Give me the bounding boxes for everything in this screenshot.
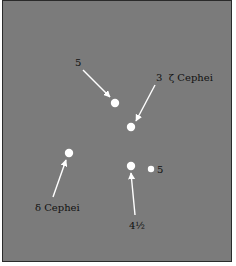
label-mag5-right: 5	[157, 164, 163, 175]
star-delta-cephei	[65, 149, 73, 157]
star-mag4-5	[127, 162, 135, 170]
arrow-zeta-cephei	[136, 85, 155, 121]
star-chart: 5 3 ζ Cephei δ Cephei 4½ 5	[0, 0, 236, 266]
label-delta-cephei: δ Cephei	[35, 202, 80, 213]
arrow-mag5-upper	[83, 70, 110, 97]
star-mag5-upper	[111, 99, 119, 107]
arrow-mag4-5	[131, 173, 135, 215]
label-zeta-cephei: 3 ζ Cephei	[156, 72, 213, 83]
label-mag4-5: 4½	[129, 220, 145, 231]
label-mag5-upper: 5	[75, 57, 81, 68]
arrow-delta-cephei	[53, 160, 66, 197]
star-zeta-cephei	[127, 123, 135, 131]
star-mag5-right	[148, 166, 154, 172]
